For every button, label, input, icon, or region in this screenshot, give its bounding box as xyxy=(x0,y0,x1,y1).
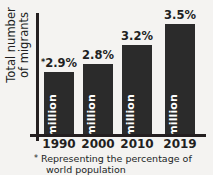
bar-percent-label-2010: 3.2% xyxy=(121,29,153,43)
footnote-line-2: world population xyxy=(26,164,208,175)
chart-footnote: * Representing the percentage of world p… xyxy=(26,153,208,175)
bar-2010: 221 million xyxy=(122,45,152,134)
bar-2019: 272 million xyxy=(165,24,195,134)
bar-percent-label-2000: 2.8% xyxy=(82,48,114,62)
plot-area: *2.9% 153 million 2.8% 174 million 3.2% … xyxy=(39,13,206,134)
bar-value-label-1990: 153 million xyxy=(46,94,59,134)
x-tick-label-2010: 2010 xyxy=(117,137,157,151)
bar-value-label-2010: 221 million xyxy=(124,94,137,134)
bar-percent-label-1990: *2.9% xyxy=(41,56,77,70)
bar-percent-value-2000: 2.8% xyxy=(82,48,114,62)
bar-percent-value-1990: 2.9% xyxy=(45,56,77,70)
footnote-asterisk: * xyxy=(34,154,38,163)
bar-value-label-2000: 174 million xyxy=(85,94,98,134)
y-axis-title-line-2: of migrants xyxy=(18,12,31,78)
bar-percent-label-2019: 3.5% xyxy=(164,8,196,22)
x-axis-tick-labels: 1990 2000 2010 2019 xyxy=(39,137,206,153)
x-tick-label-2000: 2000 xyxy=(78,137,118,151)
x-tick-label-2019: 2019 xyxy=(160,137,200,151)
footnote-line-1: * Representing the percentage of xyxy=(26,153,208,164)
bar-value-label-2019: 272 million xyxy=(167,94,180,134)
footnote-text-1: Representing the percentage of xyxy=(41,153,192,164)
bar-percent-value-2010: 3.2% xyxy=(121,29,153,43)
x-tick-label-1990: 1990 xyxy=(39,137,79,151)
bar-percent-value-2019: 3.5% xyxy=(164,8,196,22)
bar-2000: 174 million xyxy=(83,64,113,134)
y-axis-title: Total number of migrants xyxy=(1,0,35,95)
migrants-bar-chart: Total number of migrants *2.9% 153 milli… xyxy=(0,0,213,175)
bar-1990: 153 million xyxy=(44,72,74,134)
